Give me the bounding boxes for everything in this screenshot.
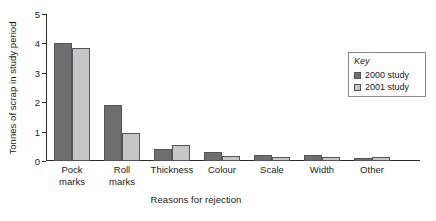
- legend-entry: 2000 study: [354, 69, 425, 81]
- x-axis-title: Reasons for rejection: [46, 194, 346, 205]
- bar: [322, 157, 340, 161]
- bar-group: [54, 14, 90, 161]
- legend-label: 2001 study: [365, 81, 409, 93]
- y-tick-label: 1: [35, 126, 40, 137]
- y-axis-line: [46, 14, 47, 161]
- x-tick-label: Other: [342, 164, 402, 176]
- y-axis-title: Tonnes of scrap in study period: [4, 8, 22, 168]
- y-tick-label: 3: [35, 67, 40, 78]
- bar: [304, 155, 322, 161]
- bar-group: [304, 14, 340, 161]
- y-tick-mark: [42, 132, 46, 133]
- bar: [254, 155, 272, 161]
- y-tick-label: 5: [35, 9, 40, 20]
- y-tick-label: 0: [35, 156, 40, 167]
- legend-entry: 2001 study: [354, 81, 425, 93]
- bar-group: [104, 14, 140, 161]
- y-tick-mark: [42, 43, 46, 44]
- y-tick-label: 2: [35, 97, 40, 108]
- bar: [54, 43, 72, 161]
- legend-label: 2000 study: [365, 69, 409, 81]
- y-tick-label: 4: [35, 38, 40, 49]
- legend-swatch-icon: [354, 84, 361, 91]
- y-tick-mark: [42, 102, 46, 103]
- bar-group: [204, 14, 240, 161]
- bar: [154, 149, 172, 161]
- bar: [204, 152, 222, 161]
- bar: [272, 157, 290, 161]
- bar: [172, 145, 190, 161]
- legend-swatch-icon: [354, 72, 361, 79]
- bar: [372, 157, 390, 161]
- bar-group: [254, 14, 290, 161]
- bar: [222, 156, 240, 161]
- y-tick-mark: [42, 161, 46, 162]
- bar-group: [154, 14, 190, 161]
- legend: Key 2000 study2001 study: [348, 52, 426, 97]
- bar: [122, 133, 140, 161]
- bar: [104, 105, 122, 161]
- y-tick-mark: [42, 73, 46, 74]
- legend-entries: 2000 study2001 study: [354, 69, 425, 93]
- y-tick-mark: [42, 14, 46, 15]
- legend-title: Key: [354, 56, 425, 67]
- bar: [72, 48, 90, 161]
- bar-chart: Tonnes of scrap in study period 012345 P…: [0, 0, 436, 221]
- bar: [354, 158, 372, 161]
